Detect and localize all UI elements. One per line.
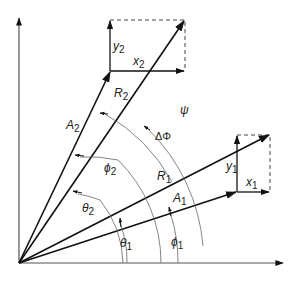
label-delta-phi: ΔΦ	[155, 130, 171, 142]
label-y2: y2	[112, 39, 125, 55]
vector-R1	[19, 135, 269, 263]
label-theta2: θ2	[82, 201, 95, 217]
label-phi1: ϕ1	[171, 235, 184, 251]
arc-theta2	[100, 200, 123, 263]
vector-R2	[19, 21, 184, 263]
phasor-diagram: A2 R2 A1 R1 y2 x2 y1 x1 ψ ΔΦ ϕ2 θ2 θ1 ϕ1	[0, 0, 289, 284]
label-psi: ψ	[180, 103, 189, 117]
label-R2: R2	[114, 86, 129, 102]
label-x1: x1	[245, 175, 258, 191]
label-x2: x2	[132, 54, 145, 70]
vector-A2	[19, 72, 110, 263]
label-y1: y1	[225, 159, 238, 175]
label-A1: A1	[172, 191, 187, 207]
arc-psi	[148, 129, 203, 246]
vector-A1	[19, 192, 236, 263]
label-A2: A2	[65, 118, 80, 134]
label-R1: R1	[157, 169, 172, 185]
label-phi2: ϕ2	[104, 161, 117, 177]
label-theta1: θ1	[120, 236, 133, 252]
